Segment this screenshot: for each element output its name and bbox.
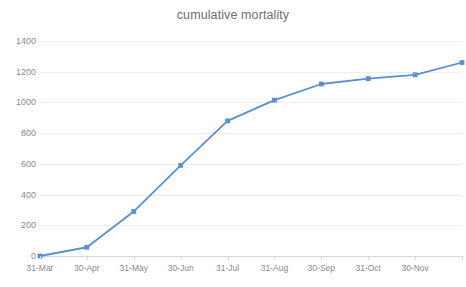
y-axis: 0200400600800100012001400 [0,41,36,256]
x-axis-tick-mark [415,256,416,260]
x-axis-tick-mark [87,256,88,260]
x-axis-tick-label: 31-May [120,263,148,273]
x-axis-tick-mark [274,256,275,260]
gridline [40,102,462,103]
y-axis-tick-label: 1200 [2,67,36,77]
chart-title: cumulative mortality [0,8,466,22]
y-axis-tick-label: 1400 [2,36,36,46]
gridline [40,133,462,134]
x-axis-tick-label: 30-Apr [74,263,100,273]
y-axis-tick-label: 0 [2,251,36,261]
x-axis-tick-mark [134,256,135,260]
x-axis-tick-label: 31-Oct [355,263,381,273]
x-axis-tick-mark [321,256,322,260]
gridline [40,41,462,42]
y-axis-tick-label: 1000 [2,97,36,107]
x-axis-tick-label: 30-Jun [168,263,194,273]
gridline [40,225,462,226]
gridline [40,164,462,165]
x-axis-tick-mark [40,256,41,260]
gridline [40,195,462,196]
gridline [40,72,462,73]
y-axis-tick-label: 200 [2,220,36,230]
plot-area [40,41,462,256]
y-axis-tick-label: 400 [2,190,36,200]
x-axis-tick-label: 30-Nov [401,263,428,273]
x-axis-line [40,256,462,257]
x-axis-tick-mark [368,256,369,260]
x-axis-tick-label: 31-Jul [216,263,239,273]
x-axis-tick-mark [462,256,463,260]
y-axis-tick-label: 800 [2,128,36,138]
chart-container: cumulative mortality 0200400600800100012… [0,0,466,287]
y-axis-tick-label: 600 [2,159,36,169]
x-axis-tick-label: 31-Aug [261,263,288,273]
x-axis-tick-label: 31-Mar [27,263,54,273]
x-axis-tick-mark [181,256,182,260]
x-axis-tick-mark [228,256,229,260]
x-axis-tick-label: 30-Sep [308,263,335,273]
